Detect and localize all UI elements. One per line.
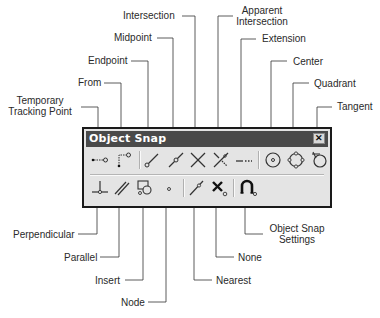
extension-icon [234, 150, 254, 170]
callout-center: Center [293, 56, 323, 67]
tangent-button[interactable] [309, 150, 329, 170]
callout-from: From [78, 77, 101, 88]
toolbar-separator [183, 179, 185, 197]
object-snap-toolbar: Object Snap ✕ [82, 127, 332, 208]
nearest-icon [187, 178, 207, 198]
toolbar-separator [139, 151, 141, 169]
from-icon [114, 150, 134, 170]
close-icon[interactable]: ✕ [313, 133, 325, 144]
parallel-button[interactable] [112, 178, 132, 198]
intersection-icon [188, 150, 208, 170]
quadrant-button[interactable] [286, 150, 306, 170]
callout-endpoint: Endpoint [88, 55, 127, 66]
none-icon [209, 178, 229, 198]
node-icon [159, 178, 179, 198]
insert-button[interactable] [135, 178, 155, 198]
callout-tangent: Tangent [337, 101, 373, 112]
callout-text: Apparent [234, 5, 290, 16]
toolbar-row-2 [86, 177, 328, 201]
callout-perpendicular: Perpendicular [13, 229, 75, 240]
callout-text: Settings [266, 234, 328, 245]
apparent-intersection-button[interactable] [211, 150, 231, 170]
insert-icon [135, 178, 155, 198]
quadrant-icon [286, 150, 306, 170]
callout-apparent-intersection: Apparent Intersection [234, 5, 290, 27]
object-snap-settings-icon [238, 178, 258, 198]
toolbar-row-divider [90, 174, 324, 176]
callout-quadrant: Quadrant [314, 78, 356, 89]
endpoint-button[interactable] [142, 150, 162, 170]
callout-text: Temporary [4, 95, 76, 106]
midpoint-button[interactable] [166, 150, 186, 170]
callout-text: Object Snap [266, 223, 328, 234]
callout-temporary-tracking-point: Temporary Tracking Point [4, 95, 76, 117]
callout-nearest: Nearest [216, 275, 251, 286]
callout-extension: Extension [262, 33, 306, 44]
none-button[interactable] [209, 178, 229, 198]
toolbar-title: Object Snap [89, 132, 166, 145]
temporary-tracking-point-button[interactable] [90, 150, 110, 170]
callout-node: Node [121, 297, 145, 308]
callout-text: Intersection [234, 16, 290, 27]
endpoint-icon [142, 150, 162, 170]
perpendicular-icon [90, 178, 110, 198]
midpoint-icon [166, 150, 186, 170]
perpendicular-button[interactable] [90, 178, 110, 198]
temporary-tracking-point-icon [90, 150, 110, 170]
callout-object-snap-settings: Object Snap Settings [266, 223, 328, 245]
apparent-intersection-icon [211, 150, 231, 170]
center-button[interactable] [263, 150, 283, 170]
callout-midpoint: Midpoint [114, 32, 152, 43]
node-button[interactable] [159, 178, 179, 198]
callout-none: None [238, 252, 262, 263]
callout-text: Tracking Point [4, 106, 76, 117]
toolbar-separator [258, 151, 260, 169]
parallel-icon [112, 178, 132, 198]
center-icon [263, 150, 283, 170]
extension-button[interactable] [234, 150, 254, 170]
callout-intersection: Intersection [123, 10, 175, 21]
from-button[interactable] [114, 150, 134, 170]
toolbar-titlebar[interactable]: Object Snap ✕ [86, 131, 328, 147]
object-snap-settings-button[interactable] [238, 178, 258, 198]
nearest-button[interactable] [187, 178, 207, 198]
intersection-button[interactable] [188, 150, 208, 170]
callout-parallel: Parallel [64, 252, 97, 263]
tangent-icon [309, 150, 329, 170]
callout-insert: Insert [95, 275, 120, 286]
toolbar-separator [233, 179, 235, 197]
toolbar-row-1 [86, 149, 328, 173]
